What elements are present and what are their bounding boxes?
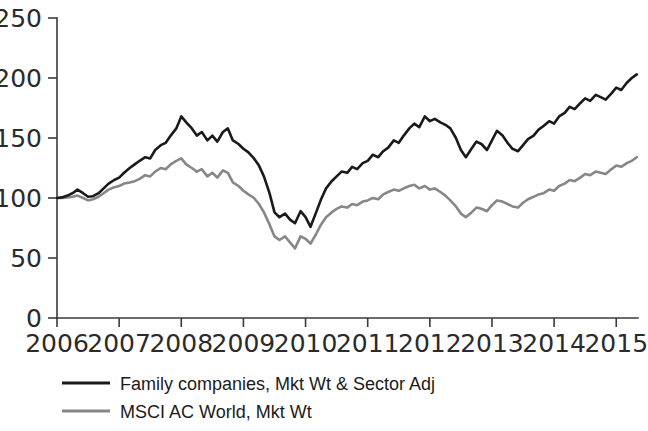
x-axis: 2006200720082009201020112012201320142015 (25, 318, 648, 358)
x-tick-group: 2006200720082009201020112012201320142015 (25, 318, 648, 358)
chart-legend: Family companies, Mkt Wt & Sector AdjMSC… (62, 374, 435, 422)
y-tick-label: 250 (0, 4, 42, 33)
series-group (57, 74, 637, 248)
y-tick-label: 50 (10, 244, 42, 273)
x-tick-label: 2007 (87, 329, 151, 358)
y-tick-label: 100 (0, 184, 42, 213)
x-tick-label: 2015 (584, 329, 648, 358)
x-tick-label: 2011 (336, 329, 400, 358)
series-line (57, 157, 637, 248)
x-tick-label: 2008 (149, 329, 213, 358)
x-tick-label: 2014 (522, 329, 586, 358)
chart-svg: 050100150200250 200620072008200920102011… (0, 0, 648, 431)
y-tick-group: 050100150200250 (0, 4, 57, 333)
legend-label: MSCI AC World, Mkt Wt (120, 402, 312, 422)
x-tick-label: 2010 (274, 329, 338, 358)
legend-label: Family companies, Mkt Wt & Sector Adj (120, 374, 435, 394)
y-tick-label: 150 (0, 124, 42, 153)
series-line (57, 74, 637, 226)
x-tick-label: 2013 (460, 329, 524, 358)
x-tick-label: 2012 (398, 329, 462, 358)
y-tick-label: 200 (0, 64, 42, 93)
x-tick-label: 2006 (25, 329, 89, 358)
x-tick-label: 2009 (212, 329, 276, 358)
y-axis: 050100150200250 (0, 4, 57, 333)
line-chart: 050100150200250 200620072008200920102011… (0, 0, 648, 431)
